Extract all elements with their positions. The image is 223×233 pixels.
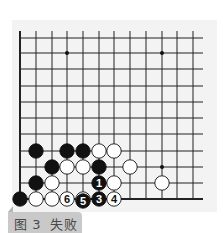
stone-body xyxy=(45,176,59,190)
star-point xyxy=(65,51,69,55)
move-number: 4 xyxy=(111,193,118,205)
white-stone: 4 xyxy=(107,192,121,206)
stone-body xyxy=(155,176,169,190)
go-board: 162345 xyxy=(0,0,223,233)
black-stone xyxy=(92,160,106,174)
stone-body xyxy=(123,160,137,174)
move-number: 1 xyxy=(96,177,102,189)
stone-body xyxy=(76,144,90,158)
white-stone xyxy=(107,144,121,158)
black-stone xyxy=(60,144,74,158)
black-stone xyxy=(13,192,27,206)
black-stone xyxy=(45,160,59,174)
stone-body xyxy=(107,176,121,190)
caption-text: 图 3 失败 xyxy=(14,214,77,233)
move-number: 3 xyxy=(96,193,102,205)
stone-body xyxy=(76,160,90,174)
star-point xyxy=(160,165,164,169)
stone-body xyxy=(29,192,43,206)
white-stone: 6 xyxy=(60,192,74,206)
white-stone xyxy=(107,176,121,190)
stone-body xyxy=(92,160,106,174)
star-point xyxy=(160,51,164,55)
black-stone xyxy=(76,144,90,158)
white-stone xyxy=(155,176,169,190)
stone-body xyxy=(29,144,43,158)
white-stone xyxy=(29,192,43,206)
black-stone: 5 xyxy=(76,194,90,208)
stone-body xyxy=(29,176,43,190)
white-stone xyxy=(92,144,106,158)
black-stone: 3 xyxy=(92,192,106,206)
white-stone xyxy=(45,192,59,206)
stone-body xyxy=(13,192,27,206)
stone-body xyxy=(92,144,106,158)
stone-body xyxy=(60,160,74,174)
figure-caption: 图 3 失败 xyxy=(8,212,82,233)
stone-body xyxy=(45,192,59,206)
black-stone: 1 xyxy=(92,176,106,190)
white-stone xyxy=(123,160,137,174)
black-stone xyxy=(29,144,43,158)
black-stone xyxy=(29,176,43,190)
stone-body xyxy=(45,160,59,174)
move-number: 6 xyxy=(64,193,70,205)
stone-body xyxy=(60,144,74,158)
white-stone xyxy=(76,160,90,174)
stone-body xyxy=(107,144,121,158)
white-stone xyxy=(60,160,74,174)
white-stone xyxy=(45,176,59,190)
move-number: 5 xyxy=(80,195,86,207)
